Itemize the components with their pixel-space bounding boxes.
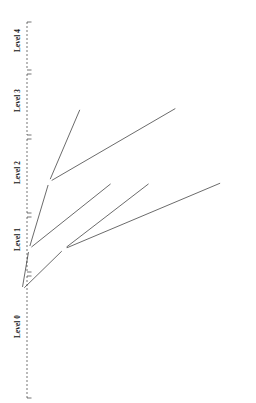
tree-diagram bbox=[0, 0, 256, 403]
axis-level-label-1: Level 3 bbox=[14, 89, 22, 112]
axis-level-label-2: Level 2 bbox=[14, 161, 22, 184]
tree-edge bbox=[67, 183, 220, 248]
axis-level-label-4: Level 0 bbox=[14, 315, 22, 338]
level-axis bbox=[27, 22, 32, 398]
tree-edges bbox=[23, 109, 221, 288]
axis-level-label-0: Level 4 bbox=[14, 29, 22, 52]
tree-edge bbox=[31, 184, 110, 247]
tree-edge bbox=[52, 109, 176, 181]
tree-edge bbox=[30, 185, 48, 246]
figure-canvas: Level 4Level 3Level 2Level 1Level 0 bbox=[0, 0, 256, 403]
tree-edge bbox=[24, 251, 62, 288]
axis-level-label-3: Level 1 bbox=[14, 228, 22, 251]
tree-edge bbox=[23, 252, 29, 287]
tree-edge bbox=[66, 184, 148, 247]
tree-edge bbox=[50, 110, 80, 179]
